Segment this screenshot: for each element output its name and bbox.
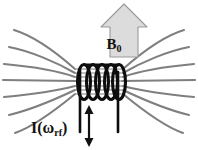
field-line xyxy=(3,80,76,81)
current-label-prefix: I( xyxy=(31,119,43,137)
field-line xyxy=(122,80,195,81)
figure-canvas: B0 xyxy=(0,0,198,150)
rf-coil-figure: B0 xyxy=(0,0,198,150)
omega-symbol: ω xyxy=(43,119,55,136)
current-label-suffix: ) xyxy=(62,119,67,137)
current-label: I(ωrf) xyxy=(31,119,67,138)
b0-label-base: B xyxy=(106,36,116,52)
b0-label-subscript: 0 xyxy=(117,43,122,54)
